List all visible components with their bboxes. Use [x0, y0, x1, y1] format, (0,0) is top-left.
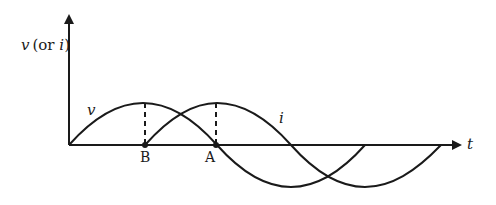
point-a — [213, 142, 219, 148]
t-axis-label: t — [467, 135, 474, 153]
point-b — [142, 142, 148, 148]
point-b-label: B — [140, 149, 150, 165]
phase-diagram: v(or i) v i t B A — [0, 0, 496, 205]
point-a-label: A — [204, 149, 216, 165]
y-axis-label: v(or i) — [21, 36, 70, 54]
i-curve-label: i — [279, 109, 284, 127]
v-curve-label: v — [87, 101, 96, 119]
